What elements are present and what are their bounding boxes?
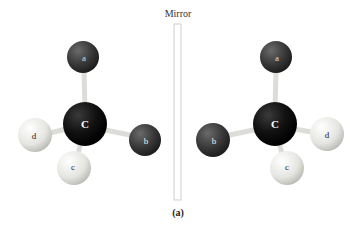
figure-caption: (a) <box>172 207 184 219</box>
mirror-label: Mirror <box>165 8 192 19</box>
label-c-right: c <box>285 162 289 172</box>
label-a-right: a <box>275 53 279 63</box>
label-d-left: d <box>32 131 37 141</box>
mirror-plane <box>174 24 181 200</box>
label-b-left: b <box>144 136 149 146</box>
label-carbon-left: C <box>81 118 89 130</box>
label-carbon-right: C <box>271 118 279 130</box>
label-d-right: d <box>325 130 330 140</box>
label-c-left: c <box>71 162 75 172</box>
right-molecule: a b c d C <box>196 41 344 185</box>
enantiomer-diagram: Mirror a b c d C a b c <box>0 0 356 236</box>
left-molecule: a b c d C <box>18 41 161 185</box>
label-a-left: a <box>82 53 86 63</box>
label-b-right: b <box>212 136 217 146</box>
